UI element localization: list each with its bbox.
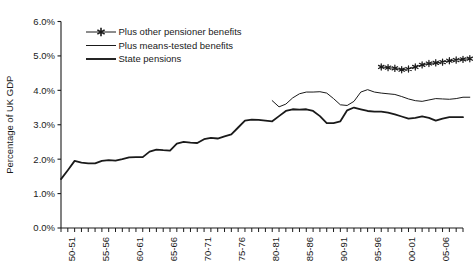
x-axis-tick-label: 85-86 — [304, 237, 315, 261]
line-chart: 0.0%1.0%2.0%3.0%4.0%5.0%6.0%Percentage o… — [0, 0, 473, 280]
legend: Plus other pensioner benefitsPlus means-… — [86, 26, 242, 64]
series-3 — [379, 56, 473, 73]
y-axis-tick-label: 4.0% — [33, 85, 55, 96]
legend-label: Plus other pensioner benefits — [119, 26, 242, 37]
y-axis-tick-label: 6.0% — [33, 16, 55, 27]
x-axis-tick-label: 95-96 — [372, 237, 383, 261]
series-2 — [272, 90, 470, 107]
y-axis-tick-label: 1.0% — [33, 188, 55, 199]
y-axis-tick-label: 5.0% — [33, 50, 55, 61]
x-axis-tick-label: 90-91 — [338, 237, 349, 261]
y-axis-title: Percentage of UK GDP — [4, 76, 15, 174]
x-axis-tick-label: 50-51 — [66, 237, 77, 261]
series-marker-star — [413, 64, 418, 70]
x-axis-tick-label: 75-76 — [236, 237, 247, 261]
y-axis-tick-label: 3.0% — [33, 119, 55, 130]
legend-label: Plus means-tested benefits — [119, 40, 234, 51]
series-line — [61, 108, 463, 180]
y-axis-tick-label: 2.0% — [33, 154, 55, 165]
x-axis-tick-label: 80-81 — [270, 237, 281, 261]
series-1 — [61, 108, 463, 180]
x-axis-tick-label: 70-71 — [202, 237, 213, 261]
y-axis-tick-label: 0.0% — [33, 222, 55, 233]
x-axis-tick-label: 65-66 — [168, 237, 179, 261]
x-axis-tick-label: 60-61 — [134, 237, 145, 261]
legend-label: State pensions — [119, 53, 182, 64]
series-line — [272, 90, 470, 107]
chart-container: 0.0%1.0%2.0%3.0%4.0%5.0%6.0%Percentage o… — [0, 0, 473, 280]
x-axis-tick-label: 00-01 — [406, 237, 417, 261]
x-axis-tick-label: 55-56 — [100, 237, 111, 261]
x-axis-tick-label: 05-06 — [440, 237, 451, 261]
